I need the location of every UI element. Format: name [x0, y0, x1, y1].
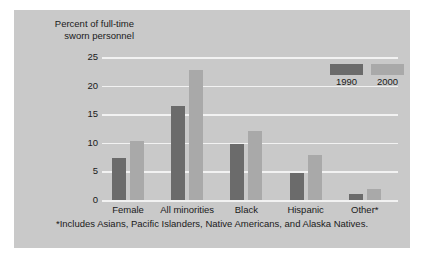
legend-swatch-2000	[371, 64, 404, 75]
y-tick-label: 15	[72, 108, 98, 119]
legend-item-2000[interactable]: 2000	[371, 64, 404, 87]
bar-2000[interactable]	[308, 155, 322, 200]
y-tick-label: 10	[72, 137, 98, 148]
bar-group: All minorities	[161, 57, 213, 200]
bar-1990[interactable]	[290, 173, 304, 200]
bar-1990[interactable]	[349, 194, 363, 200]
legend-label-1990: 1990	[330, 76, 363, 87]
y-axis-tick-labels: 0510152025	[68, 57, 98, 200]
bar-group: Hispanic	[280, 57, 332, 200]
legend: 1990 2000	[330, 64, 406, 90]
bar-group: Black	[220, 57, 272, 200]
y-tick-label: 20	[72, 80, 98, 91]
legend-label-2000: 2000	[371, 76, 404, 87]
x-tick-label: Other*	[331, 204, 399, 215]
x-tick-label: Black	[212, 204, 280, 215]
legend-item-1990[interactable]: 1990	[330, 64, 363, 87]
chart-figure: Percent of full-time sworn personnel 051…	[14, 10, 410, 248]
bar-2000[interactable]	[189, 70, 203, 200]
x-tick-label: All minorities	[153, 204, 221, 215]
bar-group: Female	[102, 57, 154, 200]
x-tick-label: Female	[94, 204, 162, 215]
bar-2000[interactable]	[248, 131, 262, 200]
bar-2000[interactable]	[130, 141, 144, 201]
bar-1990[interactable]	[230, 144, 244, 200]
legend-swatch-1990	[330, 64, 363, 75]
y-tick-label: 5	[72, 165, 98, 176]
axis-baseline	[102, 200, 398, 202]
bar-1990[interactable]	[112, 158, 126, 200]
y-tick-label: 25	[72, 51, 98, 62]
y-axis-title: Percent of full-time sworn personnel	[24, 18, 134, 42]
footnote: *Includes Asians, Pacific Islanders, Nat…	[14, 218, 410, 229]
x-tick-label: Hispanic	[272, 204, 340, 215]
bar-2000[interactable]	[367, 189, 381, 200]
bar-1990[interactable]	[171, 106, 185, 200]
